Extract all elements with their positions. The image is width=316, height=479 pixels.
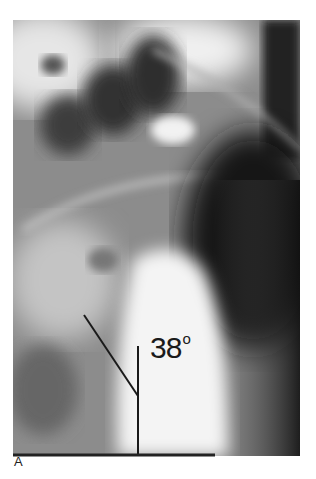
angle-annotation	[0, 0, 316, 479]
diagonal-line	[84, 315, 138, 396]
angle-value: 38	[150, 331, 181, 364]
figure-panel-label: A	[14, 455, 23, 468]
degree-symbol: o	[182, 330, 189, 347]
angle-measurement-label: 38o	[150, 333, 190, 363]
